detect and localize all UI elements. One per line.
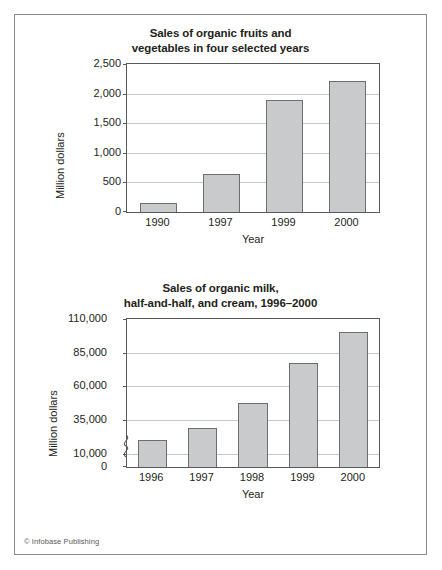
y-tick-label: 500 [103, 176, 121, 187]
figure-panel: Sales of organic fruits and vegetables i… [14, 14, 427, 555]
y-tick-mark [123, 211, 127, 212]
y-tick-label: 1,000 [93, 146, 121, 157]
x-tick-label: 1999 [271, 216, 295, 228]
y-tick-mark [123, 123, 127, 124]
plot-area-wrapper-bottom: Million dollars 010,00035,00060,00085,00… [15, 310, 426, 510]
y-tick-label: 2,500 [93, 58, 121, 69]
y-tick-label: 10,000 [73, 447, 107, 458]
y-tick-label: 35,000 [73, 413, 107, 424]
chart-title-top-line1: Sales of organic fruits and [150, 27, 292, 39]
chart-title-bottom: Sales of organic milk, half-and-half, an… [15, 273, 426, 310]
chart-organic-fruits-vegetables: Sales of organic fruits and vegetables i… [15, 15, 426, 273]
plot-frame-top [126, 63, 380, 213]
y-tick-mark [123, 466, 127, 467]
figure-page: Sales of organic fruits and vegetables i… [0, 0, 442, 570]
x-axis-title-top: Year [126, 233, 380, 245]
y-tick-label: 1,500 [93, 117, 121, 128]
x-tick-label: 1997 [208, 216, 232, 228]
y-tick-label: 85,000 [73, 346, 107, 357]
chart-title-bottom-line2: half-and-half, and cream, 1996–2000 [15, 296, 426, 311]
x-axis-tick-labels-top: 1990199719992000 [126, 216, 380, 232]
y-axis-title-top: Million dollars [54, 132, 66, 199]
y-tick-label: 0 [115, 206, 121, 217]
y-tick-label: 2,000 [93, 87, 121, 98]
chart-title-top: Sales of organic fruits and vegetables i… [15, 15, 426, 55]
bar [203, 174, 240, 212]
bar [289, 363, 318, 467]
chart-title-top-line2: vegetables in four selected years [15, 41, 426, 56]
bar [188, 428, 217, 467]
chart-title-bottom-line1: Sales of organic milk, [162, 282, 278, 294]
y-tick-mark [123, 153, 127, 154]
y-tick-mark [123, 386, 127, 387]
y-tick-mark [123, 182, 127, 183]
x-tick-label: 1998 [240, 471, 264, 483]
y-tick-label: 60,000 [73, 380, 107, 391]
bar [238, 403, 267, 467]
y-tick-label: 110,000 [68, 313, 107, 324]
y-tick-mark [123, 64, 127, 65]
y-tick-label: 0 [101, 461, 107, 472]
plot-frame-bottom [126, 318, 380, 468]
bar [138, 440, 167, 467]
x-axis-title-bottom: Year [126, 488, 380, 500]
bar [266, 100, 303, 212]
bar [339, 332, 368, 467]
bar [329, 81, 366, 212]
bar [140, 203, 177, 212]
x-axis-tick-labels-bottom: 19961997199819992000 [126, 471, 380, 487]
y-axis-title-bottom: Million dollars [47, 390, 59, 457]
axis-break-icon [119, 435, 135, 457]
x-tick-label: 1997 [189, 471, 213, 483]
x-tick-label: 1999 [290, 471, 314, 483]
copyright-credit: © Infobase Publishing [24, 537, 99, 546]
x-tick-label: 1996 [139, 471, 163, 483]
y-tick-mark [123, 94, 127, 95]
x-tick-label: 2000 [334, 216, 358, 228]
y-tick-mark [123, 319, 127, 320]
plot-area-wrapper-top: Million dollars 05001,0001,5002,0002,500… [15, 55, 426, 255]
x-tick-label: 2000 [341, 471, 365, 483]
x-tick-label: 1990 [145, 216, 169, 228]
y-tick-mark [123, 420, 127, 421]
y-tick-mark [123, 353, 127, 354]
chart-organic-milk-cream: Sales of organic milk, half-and-half, an… [15, 273, 426, 518]
